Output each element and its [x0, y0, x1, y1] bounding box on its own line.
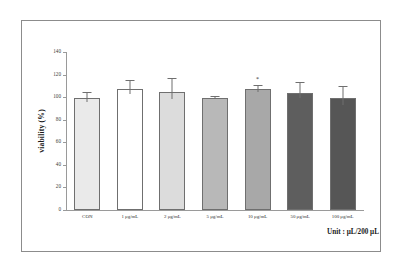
y-tick-label: 60: [56, 140, 61, 145]
y-tick-label: 80: [56, 117, 61, 122]
unit-caption: Unit : μL/200 μL: [327, 228, 379, 236]
x-axis-line: [66, 210, 364, 211]
bar[interactable]: [287, 93, 313, 210]
x-tick-label: CON: [82, 215, 92, 220]
y-tick-mark: [63, 75, 66, 76]
y-tick-label: 0: [58, 207, 61, 212]
plot-area: 020406080100120140 * CON1 μg/mL2 μg/mL5 …: [66, 52, 364, 210]
error-bar-stem: [257, 85, 258, 92]
x-tick-label: 50 μg/mL: [290, 215, 309, 220]
error-bar-stem: [342, 86, 343, 105]
bar-group[interactable]: [287, 52, 313, 210]
error-bar-cap: [211, 96, 220, 97]
error-bar-cap: [338, 86, 347, 87]
error-bar-cap: [125, 80, 134, 81]
error-bar-stem: [172, 78, 173, 99]
y-tick-label: 120: [53, 72, 61, 77]
bar-group[interactable]: [74, 52, 100, 210]
error-bar-cap: [253, 85, 262, 86]
bar[interactable]: [159, 92, 185, 211]
figure-root: viability (%) 020406080100120140 * CON1 …: [0, 0, 405, 271]
y-tick-mark: [63, 142, 66, 143]
y-tick-label: 20: [56, 185, 61, 190]
x-tick-label: 2 μg/mL: [164, 215, 181, 220]
y-tick-mark: [63, 165, 66, 166]
bar-group[interactable]: [202, 52, 228, 210]
y-tick-mark: [63, 210, 66, 211]
bar[interactable]: [202, 98, 228, 210]
significance-marker: *: [256, 76, 259, 82]
x-tick-label: 10 μg/mL: [248, 215, 267, 220]
bar-group[interactable]: [159, 52, 185, 210]
x-tick-label: 5 μg/mL: [207, 215, 224, 220]
error-bar-cap: [168, 78, 177, 79]
bar[interactable]: [245, 89, 271, 210]
error-bar-cap: [296, 82, 305, 83]
error-bar-stem: [87, 92, 88, 102]
y-tick-mark: [63, 120, 66, 121]
x-tick-label: 100 μg/mL: [332, 215, 354, 220]
bar-group[interactable]: [117, 52, 143, 210]
error-bar-stem: [129, 80, 130, 94]
y-tick-mark: [63, 187, 66, 188]
y-tick-label: 40: [56, 162, 61, 167]
y-axis-title: viability (%): [34, 52, 48, 210]
y-tick-label: 140: [53, 49, 61, 54]
bar-group[interactable]: *: [245, 52, 271, 210]
error-bar-stem: [300, 82, 301, 98]
bar[interactable]: [117, 89, 143, 210]
bar-group[interactable]: [330, 52, 356, 210]
error-bar-cap: [83, 92, 92, 93]
y-axis-line: [66, 52, 67, 210]
x-tick-label: 1 μg/mL: [121, 215, 138, 220]
y-tick-mark: [63, 52, 66, 53]
y-axis-title-text: viability (%): [37, 109, 46, 153]
bar[interactable]: [330, 98, 356, 210]
bar[interactable]: [74, 98, 100, 210]
y-tick-label: 100: [53, 95, 61, 100]
y-tick-mark: [63, 97, 66, 98]
